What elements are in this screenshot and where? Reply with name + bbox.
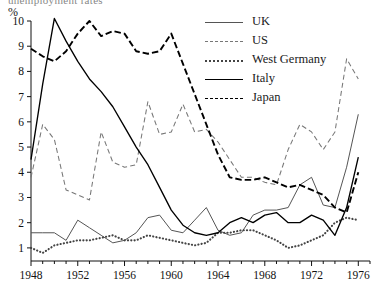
legend-key-uk [205,16,243,28]
x-tick-label: 1960 [160,269,183,281]
legend-key-line [205,60,243,62]
legend-label: Japan [252,91,280,104]
y-tick-label: 6 [18,116,24,128]
legend-row-west-germany: West Germany [205,50,370,69]
legend-key-line [205,41,243,42]
legend-key-us [205,35,243,47]
chart-figure: unemployment rates % 1234567891019481952… [0,0,376,292]
y-tick-label: 3 [18,191,24,203]
y-tick-label: 10 [13,15,25,27]
legend-key-japan [205,92,243,104]
series-line-uk [31,114,358,243]
legend-key-line [205,79,243,80]
legend-row-us: US [205,31,370,50]
legend-key-italy [205,73,243,85]
x-tick-label: 1964 [207,269,230,281]
series-line-west-germany [31,218,358,253]
y-tick-label: 8 [18,65,24,77]
legend-label: West Germany [252,53,326,66]
y-tick-label: 5 [18,141,24,153]
x-tick-label: 1952 [66,269,89,281]
legend-label: UK [252,15,270,28]
chart-legend: UKUSWest GermanyItalyJapan [205,12,370,107]
legend-row-uk: UK [205,12,370,31]
x-tick-label: 1976 [347,269,370,281]
legend-row-italy: Italy [205,69,370,88]
legend-key-line [205,98,243,99]
y-tick-label: 7 [18,91,24,103]
x-tick-label: 1956 [113,269,136,281]
y-tick-label: 2 [18,217,24,229]
y-tick-label: 4 [18,166,24,178]
legend-row-japan: Japan [205,88,370,107]
x-tick-label: 1972 [300,269,323,281]
y-tick-label: 9 [18,40,24,52]
x-tick-label: 1968 [253,269,276,281]
legend-key-west-germany [205,54,243,66]
x-tick-label: 1948 [20,269,43,281]
legend-label: Italy [252,72,275,85]
y-tick-label: 1 [18,242,24,254]
legend-key-line [205,22,243,23]
legend-label: US [252,34,268,47]
